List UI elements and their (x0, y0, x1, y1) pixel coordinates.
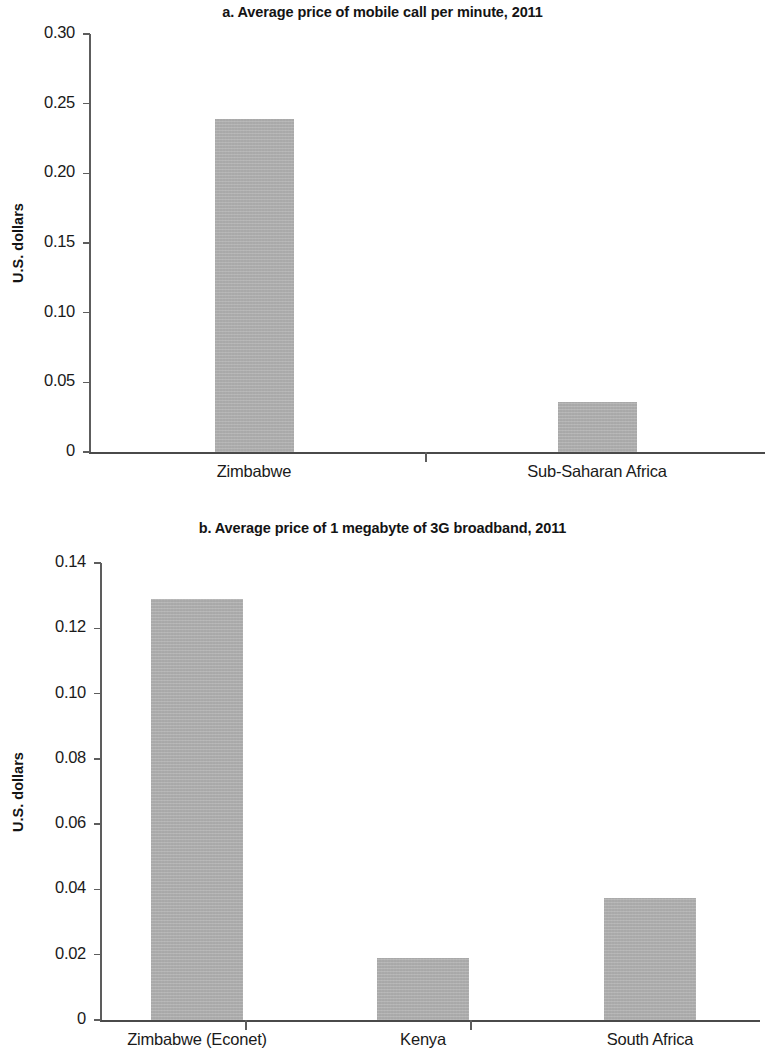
x-category-label-b-2: South Africa (500, 1030, 765, 1049)
plot-area-b: 00.020.040.060.080.100.120.14Zimbabwe (E… (0, 500, 765, 1063)
y-tick-label-b: 0 (4, 1009, 86, 1028)
chart-panel-a: a. Average price of mobile call per minu… (0, 0, 765, 500)
y-tick-b (94, 562, 101, 564)
y-tick-label-b: 0.02 (4, 944, 86, 963)
y-tick-b (94, 693, 101, 695)
y-tick-a (83, 103, 90, 105)
y-axis-line-b (100, 563, 102, 1021)
y-tick-label-a: 0.20 (0, 162, 75, 181)
y-tick-b (94, 628, 101, 630)
y-tick-a (83, 382, 90, 384)
x-axis-line-a (89, 452, 765, 454)
x-category-label-a-0: Zimbabwe (104, 462, 404, 481)
bar-b-1 (377, 958, 469, 1020)
bar-a-0 (215, 119, 294, 452)
plot-area-a: 00.050.100.150.200.250.30ZimbabweSub-Sah… (0, 0, 765, 500)
x-category-label-a-1: Sub-Saharan Africa (447, 462, 747, 481)
bar-b-2 (604, 898, 696, 1020)
category-divider-b (470, 1020, 472, 1030)
y-tick-a (83, 173, 90, 175)
y-tick-a (83, 451, 90, 453)
chart-panel-b: b. Average price of 1 megabyte of 3G bro… (0, 500, 765, 1063)
y-tick-b (94, 954, 101, 956)
y-tick-label-b: 0.12 (4, 617, 86, 636)
category-divider-a (425, 452, 427, 462)
y-tick-label-a: 0.10 (0, 302, 75, 321)
y-tick-label-a: 0 (0, 441, 75, 460)
y-tick-label-a: 0.05 (0, 371, 75, 390)
y-tick-label-a: 0.30 (0, 23, 75, 42)
y-tick-a (83, 33, 90, 35)
y-tick-label-b: 0.04 (4, 878, 86, 897)
y-tick-label-b: 0.10 (4, 683, 86, 702)
y-tick-label-b: 0.14 (4, 552, 86, 571)
y-tick-b (94, 758, 101, 760)
y-tick-label-a: 0.15 (0, 232, 75, 251)
y-tick-label-b: 0.08 (4, 748, 86, 767)
y-tick-label-b: 0.06 (4, 813, 86, 832)
y-tick-label-a: 0.25 (0, 93, 75, 112)
y-tick-b (94, 1019, 101, 1021)
y-tick-a (83, 242, 90, 244)
y-tick-b (94, 889, 101, 891)
y-tick-b (94, 823, 101, 825)
category-divider-b (245, 1020, 247, 1030)
y-tick-a (83, 312, 90, 314)
bar-a-1 (558, 402, 637, 452)
bar-b-0 (151, 599, 243, 1020)
x-axis-line-b (100, 1020, 760, 1022)
